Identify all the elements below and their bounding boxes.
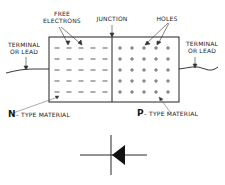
hole-plus-sign (154, 57, 158, 61)
hole-plus-sign (154, 46, 158, 50)
terminal-right-label: TERMINAL OR LEAD (181, 40, 223, 54)
right-terminal-wire (179, 67, 218, 70)
hole-plus-sign (142, 46, 146, 50)
p-type-material-label: P– TYPE MATERIAL (137, 110, 198, 117)
hole-plus-sign (154, 90, 158, 94)
hole-plus-sign (118, 90, 122, 94)
diode-triangle-icon (112, 145, 125, 165)
free-electrons-minus-signs (55, 48, 108, 92)
terminal-left-label: TERMINAL OR LEAD (4, 41, 44, 55)
holes-label: HOLES (153, 15, 181, 22)
hole-plus-sign (118, 79, 122, 83)
hole-plus-sign (130, 90, 134, 94)
free-electrons-arrows (59, 27, 82, 45)
left-terminal-arrow (24, 57, 28, 70)
hole-plus-sign (142, 79, 146, 83)
hole-plus-sign (130, 68, 134, 72)
left-terminal-wire (6, 69, 49, 73)
pn-junction-diagram (0, 0, 225, 185)
holes-plus-signs (118, 46, 170, 94)
hole-plus-sign (130, 79, 134, 83)
holes-arrows (145, 23, 169, 45)
hole-plus-sign (154, 79, 158, 83)
hole-plus-sign (142, 90, 146, 94)
free-electrons-label: FREE ELECTRONS (42, 10, 82, 24)
hole-plus-sign (166, 46, 170, 50)
hole-plus-sign (154, 68, 158, 72)
hole-plus-sign (118, 57, 122, 61)
hole-plus-sign (130, 57, 134, 61)
hole-plus-sign (118, 68, 122, 72)
hole-plus-sign (142, 68, 146, 72)
diode-symbol (80, 135, 147, 175)
hole-plus-sign (118, 46, 122, 50)
hole-plus-sign (130, 46, 134, 50)
hole-plus-sign (166, 68, 170, 72)
n-type-material-label: N– TYPE MATERIAL (8, 111, 70, 118)
hole-plus-sign (166, 79, 170, 83)
junction-arrow (110, 25, 114, 37)
junction-label: JUNCTION (90, 15, 134, 22)
hole-plus-sign (166, 57, 170, 61)
hole-plus-sign (142, 57, 146, 61)
hole-plus-sign (166, 90, 170, 94)
